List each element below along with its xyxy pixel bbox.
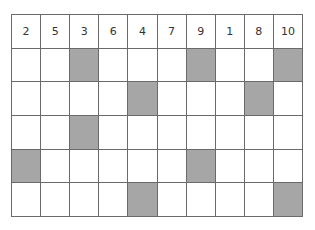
header-cell: 4	[128, 15, 157, 49]
empty-cell	[128, 150, 157, 184]
empty-cell	[99, 183, 128, 217]
empty-cell	[99, 49, 128, 83]
header-cell: 2	[12, 15, 41, 49]
header-cell: 9	[187, 15, 216, 49]
header-cell: 5	[41, 15, 70, 49]
empty-cell	[158, 82, 187, 116]
shaded-cell	[245, 82, 274, 116]
header-cell: 10	[274, 15, 303, 49]
empty-cell	[70, 150, 99, 184]
shaded-cell	[70, 49, 99, 83]
shaded-cell	[187, 150, 216, 184]
shaded-cell	[274, 49, 303, 83]
empty-cell	[187, 82, 216, 116]
empty-cell	[216, 183, 245, 217]
empty-cell	[12, 116, 41, 150]
empty-cell	[158, 49, 187, 83]
empty-cell	[158, 116, 187, 150]
header-cell: 8	[245, 15, 274, 49]
empty-cell	[187, 183, 216, 217]
header-cell: 6	[99, 15, 128, 49]
empty-cell	[274, 150, 303, 184]
empty-cell	[99, 82, 128, 116]
empty-cell	[12, 183, 41, 217]
shaded-cell	[187, 49, 216, 83]
empty-cell	[216, 49, 245, 83]
shaded-cell	[274, 183, 303, 217]
empty-cell	[128, 116, 157, 150]
empty-cell	[216, 82, 245, 116]
header-cell: 1	[216, 15, 245, 49]
empty-cell	[128, 49, 157, 83]
empty-cell	[99, 116, 128, 150]
empty-cell	[216, 116, 245, 150]
empty-cell	[12, 82, 41, 116]
empty-cell	[70, 183, 99, 217]
empty-cell	[216, 150, 245, 184]
empty-cell	[41, 150, 70, 184]
header-cell: 3	[70, 15, 99, 49]
number-grid: 2 5 3 6 4 7 9 1 8 10	[11, 14, 303, 217]
header-cell: 7	[158, 15, 187, 49]
empty-cell	[158, 183, 187, 217]
empty-cell	[70, 82, 99, 116]
empty-cell	[99, 150, 128, 184]
empty-cell	[245, 116, 274, 150]
empty-cell	[274, 116, 303, 150]
empty-cell	[158, 150, 187, 184]
empty-cell	[41, 49, 70, 83]
shaded-cell	[70, 116, 99, 150]
shaded-cell	[128, 183, 157, 217]
empty-cell	[245, 150, 274, 184]
shaded-cell	[128, 82, 157, 116]
empty-cell	[41, 183, 70, 217]
empty-cell	[245, 49, 274, 83]
empty-cell	[41, 82, 70, 116]
empty-cell	[274, 82, 303, 116]
empty-cell	[41, 116, 70, 150]
empty-cell	[187, 116, 216, 150]
empty-cell	[12, 49, 41, 83]
empty-cell	[245, 183, 274, 217]
shaded-cell	[12, 150, 41, 184]
